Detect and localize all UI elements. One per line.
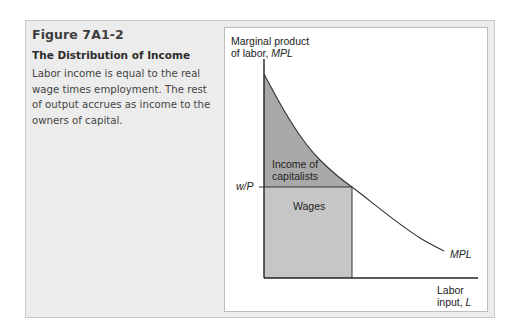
y-axis-label-line2: of labor, MPL bbox=[231, 47, 293, 59]
real-wage-label: w/P bbox=[236, 180, 254, 192]
mpl-curve-label: MPL bbox=[450, 248, 472, 260]
x-axis-label-line2: input, L bbox=[437, 296, 472, 308]
income-distribution-chart: Marginal product of labor, MPL Income of… bbox=[0, 0, 516, 334]
wages-label: Wages bbox=[293, 200, 325, 212]
y-axis-label-line1: Marginal product bbox=[231, 35, 309, 47]
capitalists-label-line1: Income of bbox=[272, 158, 318, 170]
capitalists-label-line2: capitalists bbox=[272, 170, 318, 182]
x-axis-label-line1: Labor bbox=[437, 284, 464, 296]
